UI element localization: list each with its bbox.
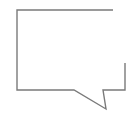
- speech-bubble-outline: [17, 10, 125, 109]
- canvas: Speech bubble: [0, 0, 139, 138]
- speech-bubble-icon: [0, 0, 139, 138]
